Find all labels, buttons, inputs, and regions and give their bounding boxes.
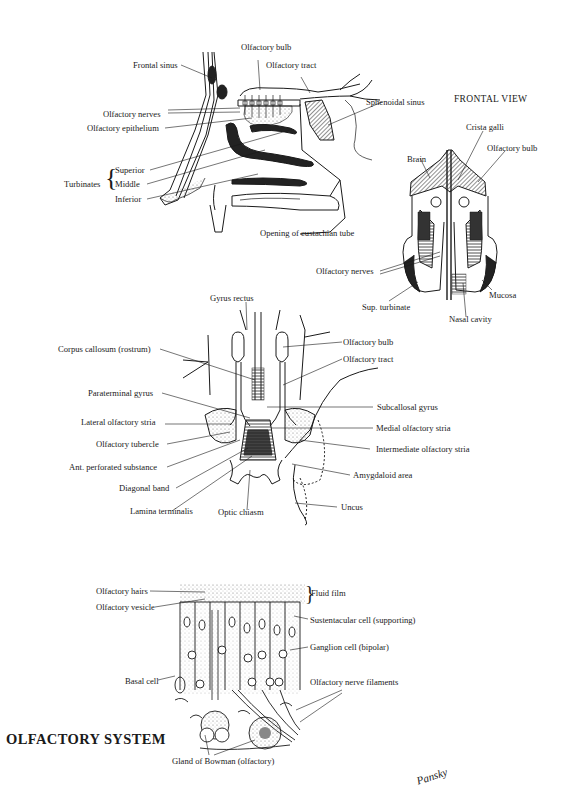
frontal-view-diagram [403, 150, 497, 300]
label-crista-galli: Crista galli [466, 122, 504, 132]
label-middle-turbinate: Middle [115, 179, 140, 189]
label-olfactory-hairs: Olfactory hairs [96, 586, 148, 596]
olfactory-epithelium-diagram [175, 584, 305, 749]
label-olfactory-bulb-frontal: Olfactory bulb [487, 143, 537, 153]
label-paraterminal-gyrus: Paraterminal gyrus [88, 388, 153, 398]
label-olfactory-epithelium: Olfactory epithelium [87, 123, 159, 133]
label-gland-of-bowman: Gland of Bowman (olfactory) [172, 756, 274, 766]
sagittal-nasal-diagram [160, 52, 380, 234]
label-olfactory-tract-sagittal: Olfactory tract [266, 60, 316, 70]
frontal-view-heading: FRONTAL VIEW [454, 94, 527, 104]
label-ganglion-cell: Ganglion cell (bipolar) [310, 642, 389, 652]
label-olfactory-bulb-basal: Olfactory bulb [343, 337, 393, 347]
label-optic-chiasm: Optic chiasm [218, 507, 264, 517]
label-amygdaloid-area: Amygdaloid area [353, 470, 412, 480]
label-turbinates: Turbinates [64, 179, 100, 189]
label-brain: Brain [407, 154, 426, 164]
label-olfactory-vesicle: Olfactory vesicle [96, 602, 155, 612]
label-uncus: Uncus [341, 502, 363, 512]
label-basal-cell: Basal cell [125, 676, 159, 686]
label-olfactory-tract-basal: Olfactory tract [343, 354, 393, 364]
label-nasal-cavity: Nasal cavity [449, 314, 492, 324]
page-title: OLFACTORY SYSTEM [6, 731, 166, 748]
label-eustachian-tube: Opening of eustachian tube [260, 228, 354, 238]
label-sustentacular-cell: Sustentacular cell (supporting) [310, 615, 415, 625]
label-sup-turbinate: Sup. turbinate [362, 302, 410, 312]
label-ant-perforated-substance: Ant. perforated substance [69, 462, 157, 472]
label-subcallosal-gyrus: Subcallosal gyrus [377, 402, 438, 412]
label-intermediate-olfactory-stria: Intermediate olfactory stria [376, 444, 470, 454]
label-inferior-turbinate: Inferior [115, 194, 141, 204]
label-olfactory-bulb-sagittal: Olfactory bulb [241, 42, 291, 52]
label-medial-olfactory-stria: Medial olfactory stria [376, 423, 450, 433]
label-fluid-film: Fluid film [311, 588, 346, 598]
label-sphenoidal-sinus: Sphenoidal sinus [366, 97, 425, 107]
label-frontal-sinus: Frontal sinus [133, 60, 178, 70]
label-diagonal-band: Diagonal band [119, 483, 169, 493]
label-lamina-terminalis: Lamina terminalis [130, 506, 193, 516]
label-superior-turbinate: Superior [115, 165, 145, 175]
label-corpus-callosum: Corpus callosum (rostrum) [58, 344, 151, 354]
label-olfactory-nerve-filaments: Olfactory nerve filaments [310, 677, 398, 687]
label-lateral-olfactory-stria: Lateral olfactory stria [81, 417, 155, 427]
label-gyrus-rectus: Gyrus rectus [210, 293, 254, 303]
label-olfactory-nerves-frontal: Olfactory nerves [316, 266, 374, 276]
label-olfactory-nerves-sagittal: Olfactory nerves [103, 109, 161, 119]
label-olfactory-tubercle: Olfactory tubercle [96, 439, 159, 449]
label-mucosa: Mucosa [489, 290, 516, 300]
